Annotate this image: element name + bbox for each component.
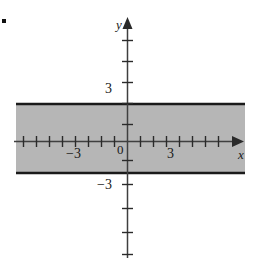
graph-figure: y x 0 −3 3 3 −3 (0, 0, 253, 265)
y-tick-label-neg3: −3 (97, 178, 112, 192)
x-tick-label-pos3: 3 (167, 147, 174, 161)
y-tick-label-pos3: 3 (105, 82, 112, 96)
origin-label: 0 (117, 143, 124, 156)
y-axis-arrowhead (123, 17, 133, 29)
x-axis-label: x (238, 148, 244, 161)
y-axis-label: y (116, 18, 122, 31)
shaded-region (16, 104, 245, 173)
x-tick-label-neg3: −3 (66, 147, 81, 161)
coordinate-plane-svg (0, 0, 253, 265)
